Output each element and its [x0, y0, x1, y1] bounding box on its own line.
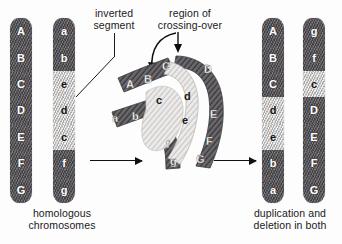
svg-text:a: a — [112, 112, 119, 124]
band-label: F — [303, 157, 325, 169]
svg-text:f: f — [166, 138, 170, 150]
svg-text:c: c — [156, 94, 162, 106]
svg-text:b: b — [132, 110, 139, 122]
band-label: A — [262, 25, 284, 37]
svg-text:g: g — [170, 155, 177, 167]
arrow-center-to-right — [214, 160, 256, 161]
band-label: E — [303, 131, 325, 143]
band-label: D — [303, 104, 325, 116]
band-label: d — [262, 104, 284, 116]
band-label: G — [303, 184, 325, 196]
recombinant-chromosome-2: g f c D E F G — [303, 18, 325, 203]
svg-text:A: A — [126, 78, 134, 90]
svg-text:C: C — [162, 60, 170, 72]
band-label: g — [303, 25, 325, 37]
svg-text:d: d — [184, 90, 191, 102]
band-label: c — [303, 78, 325, 90]
recombinant-chromosome-1: A B C d e b a — [262, 18, 284, 203]
svg-text:e: e — [182, 114, 188, 126]
svg-text:B: B — [144, 73, 152, 85]
duplication-deletion-caption: duplication and deletion in both — [238, 208, 342, 231]
band-label: f — [303, 52, 325, 64]
band-label: e — [262, 131, 284, 143]
band-label: a — [262, 184, 284, 196]
figure-canvas: A B C D E F G a b e d c f g homologous c… — [0, 0, 342, 244]
svg-text:F: F — [206, 135, 213, 147]
arrow-left-to-center — [90, 160, 142, 161]
band-label: b — [262, 157, 284, 169]
band-label: C — [262, 78, 284, 90]
svg-text:D: D — [204, 63, 212, 75]
svg-text:E: E — [210, 108, 217, 120]
band-label: B — [262, 52, 284, 64]
svg-text:G: G — [196, 153, 205, 165]
